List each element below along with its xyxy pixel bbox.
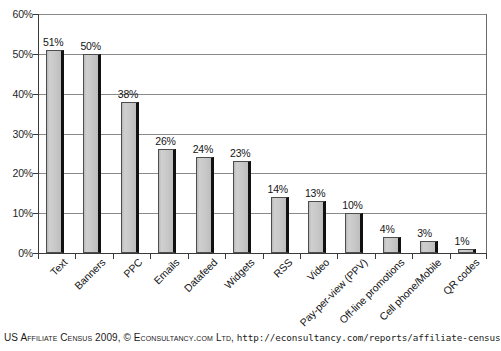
bar-value-label: 13%: [305, 187, 325, 199]
bar[interactable]: [420, 241, 438, 253]
y-axis-tick-label: 60%: [13, 8, 33, 20]
x-axis-category-label: Pay-per-view (PPV): [297, 256, 369, 328]
bar-slot: 14%: [263, 14, 300, 253]
caption-source: US Affiliate Census 2009,: [4, 332, 121, 343]
bar-slot: 13%: [300, 14, 337, 253]
bar-slot: 50%: [75, 14, 112, 253]
x-axis-category-label: QR codes: [440, 256, 481, 297]
x-axis-category-label: Off-line promotions: [337, 256, 407, 326]
bar-slot: 1%: [450, 14, 487, 253]
bar-value-label: 51%: [43, 36, 63, 48]
bar-value-label: 26%: [155, 135, 175, 147]
x-axis-category-label: PPC: [121, 256, 145, 280]
bar[interactable]: [121, 102, 139, 253]
bar-value-label: 3%: [417, 227, 432, 239]
bar-slot: 38%: [113, 14, 150, 253]
x-axis-category-label: Widgets: [222, 256, 257, 291]
bar-slot: 4%: [375, 14, 412, 253]
caption-copyright: © Econsultancy.com Ltd,: [123, 332, 234, 343]
bar[interactable]: [196, 157, 214, 253]
bar[interactable]: [383, 237, 401, 253]
y-axis-tick-label: 40%: [13, 88, 33, 100]
bar[interactable]: [271, 197, 289, 253]
x-axis-category-label: Video: [305, 256, 332, 283]
x-axis-category-label: Banners: [71, 256, 107, 292]
x-axis-category-label: Emails: [152, 256, 182, 286]
y-axis-tick-label: 20%: [13, 167, 33, 179]
x-axis-category-label: RSS: [271, 256, 295, 280]
bar-value-label: 14%: [268, 183, 288, 195]
bar-value-label: 23%: [230, 147, 250, 159]
bar-slot: 3%: [412, 14, 449, 253]
bar-value-label: 4%: [380, 223, 395, 235]
x-axis-labels: TextBannersPPCEmailsDatafeedWidgetsRSSVi…: [38, 256, 487, 326]
bar[interactable]: [345, 213, 363, 253]
bar-slot: 26%: [150, 14, 187, 253]
y-axis-tick-label: 10%: [13, 207, 33, 219]
bar-value-label: 24%: [193, 143, 213, 155]
bar-slot: 23%: [225, 14, 262, 253]
bar-value-label: 1%: [455, 235, 470, 247]
x-axis-category-label: Text: [48, 256, 70, 278]
bar-slot: 24%: [188, 14, 225, 253]
bar[interactable]: [308, 201, 326, 253]
x-axis: [38, 253, 487, 254]
y-axis-tick-label: 50%: [13, 48, 33, 60]
y-axis-tick-label: 30%: [13, 128, 33, 140]
bar-value-label: 50%: [80, 40, 100, 52]
caption-url[interactable]: http://econsultancy.com/reports/affiliat…: [237, 332, 501, 343]
x-axis-category-label: Datafeed: [181, 256, 219, 294]
bar[interactable]: [83, 54, 101, 253]
bar[interactable]: [46, 50, 64, 253]
bar-slot: 51%: [38, 14, 75, 253]
bar-value-label: 10%: [342, 199, 362, 211]
figure-caption: US Affiliate Census 2009, © Econsultancy…: [4, 332, 499, 343]
bar-value-label: 38%: [118, 88, 138, 100]
bar-chart-figure: 0%10%20%30%40%50%60% 51%50%38%26%24%23%1…: [0, 0, 501, 351]
bar-series: 51%50%38%26%24%23%14%13%10%4%3%1%: [38, 14, 487, 253]
bar[interactable]: [158, 149, 176, 253]
y-axis-tick-label: 0%: [18, 247, 33, 259]
bar-slot: 10%: [337, 14, 374, 253]
bar[interactable]: [233, 161, 251, 253]
